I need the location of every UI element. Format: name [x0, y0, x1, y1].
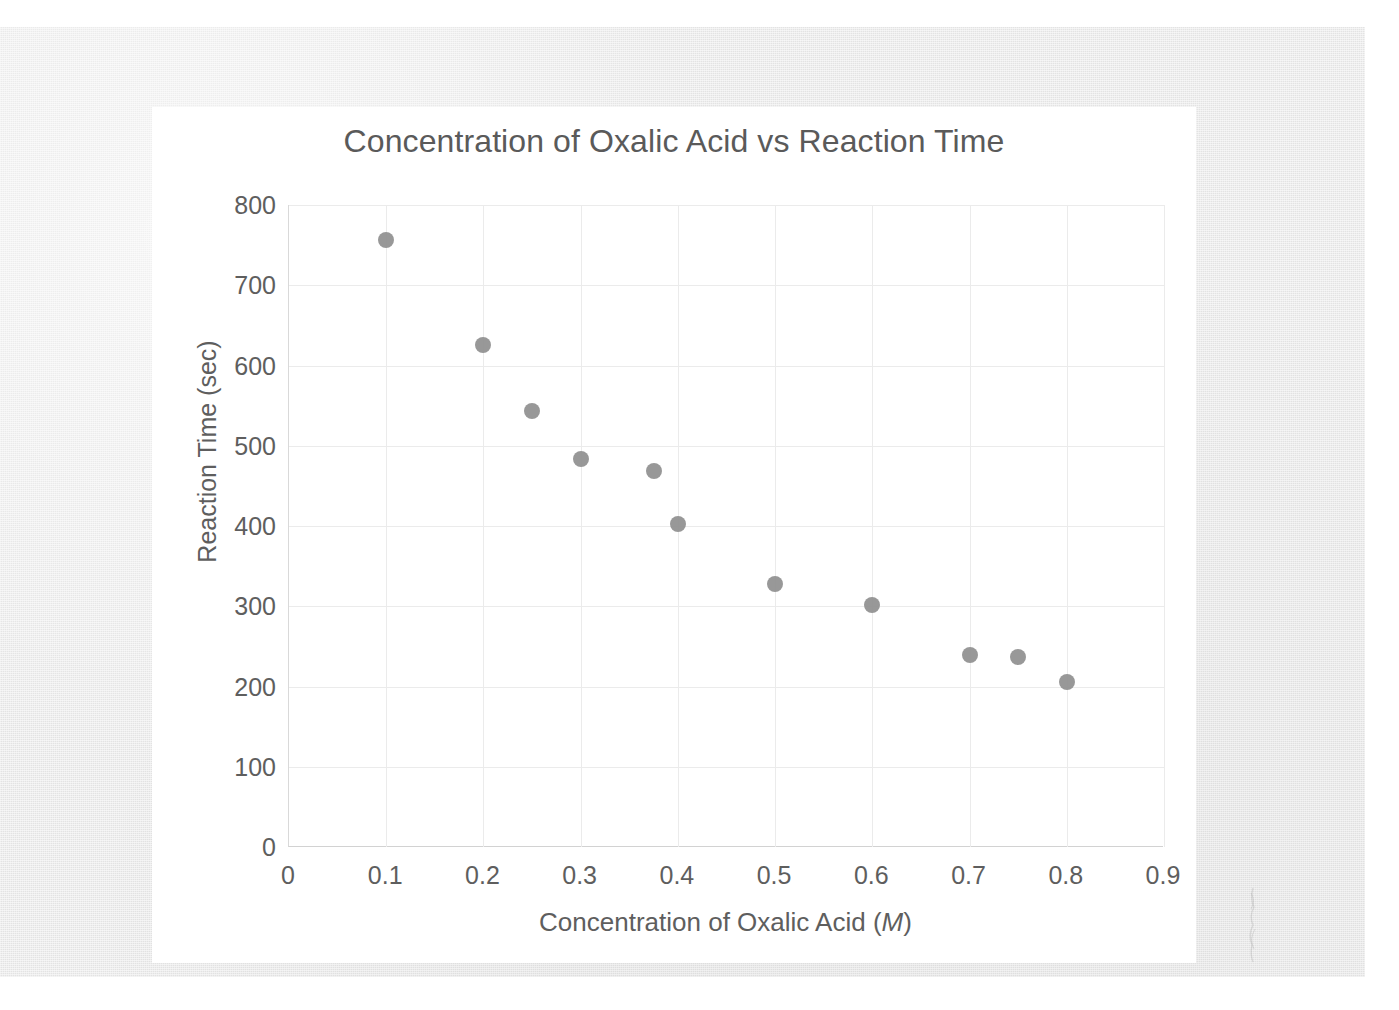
x-tick-label: 0.6: [831, 861, 911, 890]
data-point: [475, 337, 491, 353]
gridline-vertical: [970, 205, 971, 847]
data-point: [1010, 649, 1026, 665]
x-tick-label: 0.9: [1123, 861, 1203, 890]
x-tick-label: 0.7: [929, 861, 1009, 890]
y-tick-label: 100: [156, 752, 276, 781]
x-tick-label: 0.5: [734, 861, 814, 890]
x-tick-label: 0.8: [1026, 861, 1106, 890]
gridline-horizontal: [289, 366, 1164, 367]
data-point: [1059, 674, 1075, 690]
data-point: [524, 403, 540, 419]
chart-card: Concentration of Oxalic Acid vs Reaction…: [152, 107, 1196, 963]
gridline-horizontal: [289, 526, 1164, 527]
chart-title: Concentration of Oxalic Acid vs Reaction…: [152, 123, 1196, 160]
y-tick-label: 0: [156, 833, 276, 862]
gridline-vertical: [1164, 205, 1165, 847]
gridline-vertical: [581, 205, 582, 847]
data-point: [767, 576, 783, 592]
y-axis-title: Reaction Time (sec): [193, 242, 222, 662]
gridline-vertical: [872, 205, 873, 847]
gridline-horizontal: [289, 285, 1164, 286]
gridline-vertical: [775, 205, 776, 847]
gridline-horizontal: [289, 767, 1164, 768]
x-tick-label: 0: [248, 861, 328, 890]
x-tick-label: 0.1: [345, 861, 425, 890]
x-axis-title: Concentration of Oxalic Acid (M): [288, 907, 1163, 938]
gridline-horizontal: [289, 205, 1164, 206]
gridline-vertical: [386, 205, 387, 847]
data-point: [864, 597, 880, 613]
y-tick-label: 800: [156, 191, 276, 220]
y-tick-label: 200: [156, 672, 276, 701]
gridline-horizontal: [289, 446, 1164, 447]
data-point: [962, 647, 978, 663]
gridline-horizontal: [289, 606, 1164, 607]
scanned-page-background: Concentration of Oxalic Acid vs Reaction…: [0, 27, 1365, 977]
x-tick-label: 0.3: [540, 861, 620, 890]
x-axis-unit-symbol: M: [882, 907, 904, 937]
plot-area: [288, 205, 1163, 847]
x-tick-label: 0.2: [442, 861, 522, 890]
gridline-vertical: [483, 205, 484, 847]
data-point: [670, 516, 686, 532]
x-tick-label: 0.4: [637, 861, 717, 890]
gridline-vertical: [1067, 205, 1068, 847]
data-point: [646, 463, 662, 479]
x-axis-tick-labels: 00.10.20.30.40.50.60.70.80.9: [288, 861, 1163, 897]
data-point: [378, 232, 394, 248]
pencil-smudge-artifact: [1240, 885, 1266, 965]
gridline-horizontal: [289, 687, 1164, 688]
data-point: [573, 451, 589, 467]
